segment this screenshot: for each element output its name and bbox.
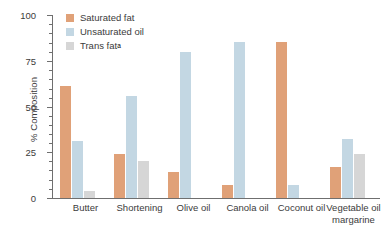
bar-chart: % Composition 100 75 50 25 0 <box>0 0 383 244</box>
legend-swatch-icon-saturated-fat <box>66 14 74 22</box>
bar-vegetable-oil-margarine-trans-fat <box>354 154 365 198</box>
y-tick-label-50: 50 <box>25 102 36 113</box>
bar-group-canola-oil <box>222 15 272 198</box>
legend-label-saturated-fat: Saturated fat <box>80 12 134 23</box>
x-axis-line <box>52 198 380 199</box>
legend-item-saturated-fat: Saturated fat <box>66 11 144 24</box>
y-tick-label-75: 75 <box>25 56 36 67</box>
bar-shortening-saturated-fat <box>114 154 125 198</box>
x-label-vegetable-oil-margarine-line2: margarine <box>311 214 383 226</box>
bar-butter-saturated-fat <box>60 86 71 198</box>
legend-label-unsaturated-oil: Unsaturated oil <box>80 26 144 37</box>
bar-olive-oil-saturated-fat <box>168 172 179 198</box>
x-label-vegetable-oil-margarine: Vegetable oil margarine <box>311 202 383 225</box>
bar-vegetable-oil-margarine-unsaturated-oil <box>342 139 353 198</box>
legend-swatch-icon-trans-fat <box>66 42 74 50</box>
bar-canola-oil-unsaturated-oil <box>234 42 245 198</box>
bar-butter-trans-fat <box>84 191 95 198</box>
bar-group-coconut-oil <box>276 15 326 198</box>
bar-olive-oil-unsaturated-oil <box>180 52 191 198</box>
chart-legend: Saturated fat Unsaturated oil Trans fata <box>66 11 144 53</box>
y-axis-tick-labels: 100 75 50 25 0 <box>0 15 45 199</box>
bar-vegetable-oil-margarine-saturated-fat <box>330 167 341 198</box>
bar-canola-oil-saturated-fat <box>222 185 233 198</box>
bar-coconut-oil-saturated-fat <box>276 42 287 198</box>
legend-item-unsaturated-oil: Unsaturated oil <box>66 25 144 38</box>
legend-footnote-marker-trans-fat: a <box>117 42 121 49</box>
y-tick-label-0: 0 <box>31 193 36 204</box>
legend-label-trans-fat: Trans fat <box>80 40 117 51</box>
legend-swatch-icon-unsaturated-oil <box>66 28 74 36</box>
bar-coconut-oil-unsaturated-oil <box>288 185 299 198</box>
bar-butter-unsaturated-oil <box>72 141 83 198</box>
x-axis-category-labels: Butter Shortening Olive oil Canola oil C… <box>52 202 379 244</box>
y-tick-label-25: 25 <box>25 147 36 158</box>
x-label-vegetable-oil-margarine-line1: Vegetable oil <box>311 202 383 214</box>
legend-item-trans-fat: Trans fata <box>66 39 144 52</box>
bar-shortening-unsaturated-oil <box>126 96 137 198</box>
y-tick-label-100: 100 <box>20 10 36 21</box>
bar-group-olive-oil <box>168 15 218 198</box>
bar-shortening-trans-fat <box>138 161 149 198</box>
y-axis-ticks <box>45 15 52 199</box>
bar-group-vegetable-oil-margarine <box>330 15 380 198</box>
